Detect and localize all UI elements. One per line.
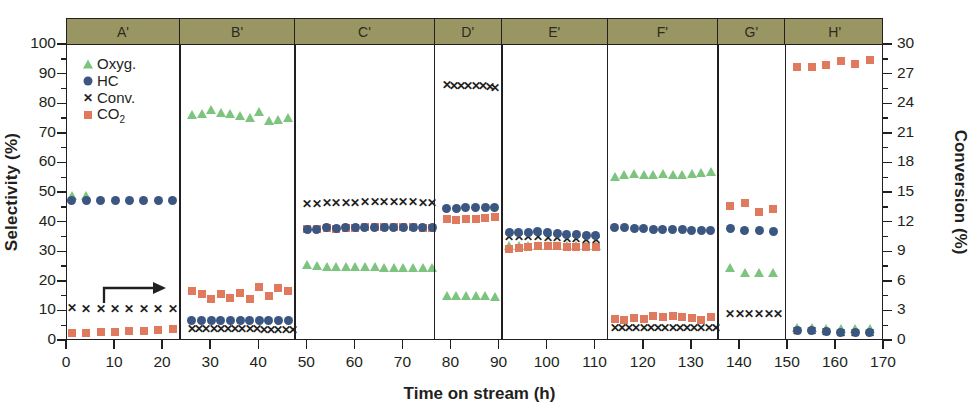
data-point-oxyg [225,109,235,118]
axis-tick [883,280,892,282]
data-point-oxyg [581,241,591,250]
axis-tick [883,73,892,75]
data-point-co2 [246,295,254,303]
data-point-oxyg [350,262,360,271]
data-point-co2 [323,224,331,232]
axis-tick [883,265,888,267]
axis-tick [690,340,692,349]
data-point-co2 [755,208,763,216]
data-point-hc [360,223,369,232]
data-point-conv: ✕ [609,323,620,334]
data-point-conv: ✕ [696,323,707,334]
data-point-co2 [284,287,292,295]
data-point-co2 [515,244,523,252]
data-point-conv: ✕ [66,303,77,314]
data-point-oxyg [264,116,274,125]
data-point-conv: ✕ [725,309,736,320]
y-axis-left-tick-label: 90 [14,64,56,82]
data-point-conv: ✕ [864,328,875,339]
panel-separator [294,45,296,339]
data-point-conv: ✕ [660,323,671,334]
data-point-co2 [741,199,749,207]
x-axis-tick-label: 0 [41,353,91,371]
data-point-co2 [351,224,359,232]
axis-tick [450,340,452,349]
y-axis-right-tick-label: 0 [897,330,939,348]
data-point-conv: ✕ [734,309,745,320]
data-point-hc [207,316,216,325]
x-axis-label: Time on stream (h) [0,384,959,404]
legend-label: HC [97,72,119,89]
data-point-conv: ✕ [552,233,563,244]
data-point-conv: ✕ [617,323,628,334]
x-axis-tick-label: 60 [329,353,379,371]
data-point-hc [620,223,629,232]
data-point-co2 [125,327,133,335]
data-point-conv: ✕ [408,197,419,208]
axis-tick [61,147,66,149]
data-point-conv: ✕ [689,323,700,334]
data-point-conv: ✕ [201,324,212,335]
data-point-co2 [707,313,715,321]
data-point-co2 [371,223,379,231]
data-point-conv: ✕ [153,304,164,315]
data-point-conv: ✕ [287,325,298,336]
data-point-co2 [226,294,234,302]
data-point-oxyg [370,262,380,271]
data-point-oxyg [648,170,658,179]
data-point-conv: ✕ [504,232,515,243]
data-point-oxyg [461,291,471,300]
data-point-conv: ✕ [280,325,291,336]
y-axis-left-tick-label: 60 [14,152,56,170]
data-point-conv: ✕ [427,198,438,209]
panel-header-Dprime: D' [435,19,502,44]
axis-tick [883,295,888,297]
data-point-conv: ✕ [581,235,592,246]
axis-tick [883,236,888,238]
x-axis-tick-label: 170 [858,353,908,371]
axis-tick [57,73,66,75]
axis-tick [883,147,888,149]
data-point-co2 [265,292,273,300]
data-point-oxyg [523,241,533,250]
data-point-co2 [274,284,282,292]
data-point-oxyg [591,241,601,250]
data-point-conv: ✕ [251,324,262,335]
legend-item-conv: ✕Conv. [79,89,136,106]
data-point-conv: ✕ [484,82,495,93]
data-point-hc [582,231,591,240]
data-point-oxyg [807,323,817,332]
data-point-hc [610,223,619,232]
data-point-co2 [572,243,580,251]
data-point-oxyg [677,170,687,179]
data-point-co2 [837,57,845,65]
data-point-co2 [188,287,196,295]
data-point-conv: ✕ [624,323,635,334]
data-point-co2 [620,316,628,324]
data-point-hc [370,223,379,232]
data-point-co2 [524,243,532,251]
y-axis-left-tick-label: 50 [14,182,56,200]
x-axis-tick-label: 100 [522,353,572,371]
data-point-oxyg [67,191,77,200]
data-point-conv: ✕ [222,324,233,335]
data-point-conv: ✕ [773,309,784,320]
data-point-conv: ✕ [645,323,656,334]
data-point-oxyg [850,324,860,333]
data-point-hc [274,316,283,325]
x-axis-tick-label: 80 [425,353,475,371]
data-point-co2 [472,215,480,223]
data-point-hc [197,316,206,325]
data-point-conv: ✕ [398,197,409,208]
data-point-conv: ✕ [388,197,399,208]
data-point-hc [67,196,76,205]
data-point-co2 [399,223,407,231]
panel-separator [434,45,436,339]
data-point-oxyg [821,324,831,333]
data-point-conv: ✕ [631,323,642,334]
data-point-hc [490,203,499,212]
data-point-co2 [452,216,460,224]
data-point-conv: ✕ [638,323,649,334]
data-point-hc [553,229,562,238]
data-point-oxyg [341,262,351,271]
